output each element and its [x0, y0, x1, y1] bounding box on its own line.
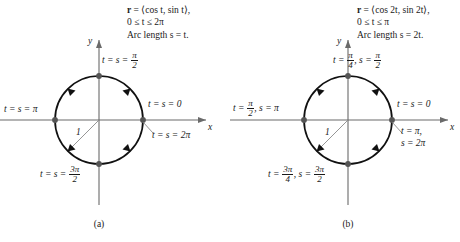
- direction-arrow-1: [68, 89, 76, 97]
- fraction-pi-over-2-left: π2: [247, 99, 254, 118]
- fraction-3pi-over-2: 3π2: [69, 165, 80, 184]
- radius-label: 1: [325, 127, 330, 138]
- label-point-right-0: t = s = 0: [148, 99, 181, 110]
- node-bottom: [345, 161, 351, 167]
- label-point-right-2pi: t = π,s = 2π: [401, 126, 425, 150]
- x-axis-label: x: [450, 122, 454, 133]
- y-axis-arrowhead: [345, 40, 351, 48]
- equation-block-a: r = ⟨cos t, sin t⟩, 0 ≤ t ≤ 2π Arc lengt…: [127, 4, 190, 41]
- node-left: [52, 117, 58, 123]
- radius-segment: [317, 120, 348, 151]
- label-point-right-0: t = s = 0: [397, 99, 430, 110]
- label-point-top: t = s = π2: [102, 51, 138, 70]
- label-point-bottom: t = s = 3π2: [40, 165, 81, 184]
- y-axis-arrowhead: [96, 40, 102, 48]
- direction-arrow-4: [123, 144, 131, 152]
- radius-segment: [68, 120, 99, 151]
- direction-arrow-2: [372, 89, 380, 97]
- fraction-3pi-over-4: 3π4: [282, 165, 293, 184]
- equation-line-1: r = ⟨cos t, sin t⟩,: [127, 4, 190, 16]
- y-axis-label: y: [337, 36, 341, 47]
- equation-line-2: 0 ≤ t ≤ π: [357, 16, 430, 28]
- equation-line-1: r = ⟨cos 2t, sin 2t⟩,: [357, 4, 430, 16]
- equation-line-3: Arc length s = t.: [127, 29, 190, 41]
- label-point-bottom: t = 3π4, s = 3π2: [268, 165, 325, 184]
- label-point-top: t = π4, s = π2: [333, 51, 381, 70]
- x-axis-arrowhead: [440, 117, 448, 123]
- label-point-right-2pi: t = s = 2π: [152, 130, 190, 141]
- figure-root: r = ⟨cos t, sin t⟩, 0 ≤ t ≤ 2π Arc lengt…: [0, 0, 460, 242]
- equation-line-1-rest: = ⟨cos 2t, sin 2t⟩,: [361, 5, 430, 15]
- fraction-pi-over-4: π4: [347, 51, 354, 70]
- x-axis-arrowhead: [198, 117, 206, 123]
- radius-label: 1: [76, 127, 81, 138]
- fraction-3pi-over-2: 3π2: [314, 165, 325, 184]
- equation-line-3: Arc length s = 2t.: [357, 29, 430, 41]
- node-left: [301, 117, 307, 123]
- equation-block-b: r = ⟨cos 2t, sin 2t⟩, 0 ≤ t ≤ π Arc leng…: [357, 4, 430, 41]
- node-top: [96, 73, 102, 79]
- label-point-left: t = π2, s = π: [233, 99, 279, 118]
- direction-arrow-1: [317, 89, 325, 97]
- panel-a: r = ⟨cos t, sin t⟩, 0 ≤ t ≤ 2π Arc lengt…: [0, 0, 230, 242]
- caption-a: (a): [79, 219, 119, 229]
- caption-b: (b): [328, 219, 368, 229]
- fraction-pi-over-2: π2: [131, 51, 138, 70]
- panel-b: r = ⟨cos 2t, sin 2t⟩, 0 ≤ t ≤ π Arc leng…: [230, 0, 460, 242]
- label-point-left: t = s = π: [4, 104, 37, 115]
- node-top: [345, 73, 351, 79]
- x-axis-label: x: [208, 122, 212, 133]
- direction-arrow-2: [123, 89, 131, 97]
- direction-arrow-4: [372, 144, 380, 152]
- equation-line-1-rest: = ⟨cos t, sin t⟩,: [131, 5, 190, 15]
- equation-line-2: 0 ≤ t ≤ 2π: [127, 16, 190, 28]
- panel-a-graphic: [0, 0, 230, 242]
- fraction-pi-over-2: π2: [374, 51, 381, 70]
- node-bottom: [96, 161, 102, 167]
- y-axis-label: y: [88, 36, 92, 47]
